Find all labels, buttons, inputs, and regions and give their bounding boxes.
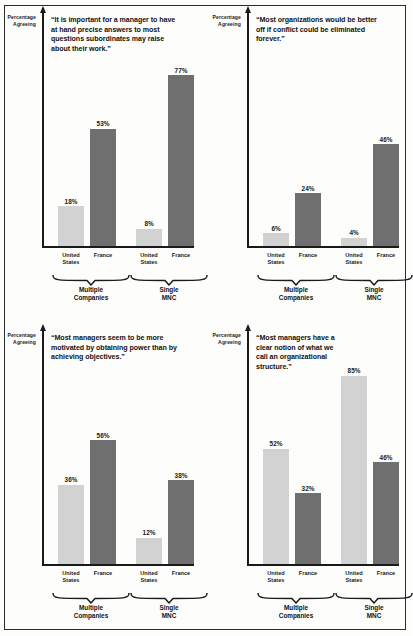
y-axis-line [42,12,44,248]
y-axis-arrow-icon [245,6,251,13]
bar [136,538,162,565]
category-tick-label-line2: States [51,259,91,266]
plot-area: “Most organizations would be better off … [247,12,399,248]
chart-panel: PercentageAgreeing“Most managers seem to… [0,318,205,636]
group-label: MultipleCompanies [54,604,128,621]
group-brace [335,590,413,601]
group-label-line1: Multiple [259,604,333,612]
bar [373,144,399,246]
group-label-line1: Multiple [54,604,128,612]
category-tick-label: France [366,570,406,577]
category-tick-label: France [161,252,201,259]
category-tick-label: France [161,570,201,577]
group-label: MultipleCompanies [259,286,333,303]
panel-quote: “Most organizations would be better off … [256,16,380,45]
category-tick-label-line2: States [256,577,296,584]
x-axis-line [42,246,194,248]
group-label: SingleMNC [337,604,411,621]
y-axis-arrow-icon [40,6,46,13]
x-axis-line [247,564,399,566]
group-label-line2: Companies [259,294,333,302]
bar [168,75,194,246]
chart-panel: PercentageAgreeing“Most managers have a … [205,318,410,636]
bar-value-label: 8% [132,220,166,227]
bar-value-label: 52% [259,440,293,447]
panel-quote: “Most managers have a clear notion of wh… [256,334,336,372]
bar [373,462,399,564]
group-label-line1: Single [132,286,206,294]
group-brace [257,590,335,601]
bar-value-label: 85% [337,367,371,374]
bar [136,229,162,247]
category-tick-label-line2: States [129,259,169,266]
bar-value-label: 53% [86,120,120,127]
group-brace [335,272,413,283]
panel-quote: “It is important for a manager to have a… [51,16,177,54]
bar [295,493,321,564]
group-label: MultipleCompanies [54,286,128,303]
bar [295,193,321,246]
bar-value-label: 24% [291,185,325,192]
group-label-line2: MNC [132,294,206,302]
y-axis-caption: PercentageAgreeing [211,332,241,346]
group-label: MultipleCompanies [259,604,333,621]
category-tick-label-line1: France [161,570,201,577]
bar [90,440,116,564]
x-axis-line [42,564,194,566]
y-axis-caption: PercentageAgreeing [211,14,241,28]
bar-value-label: 6% [259,225,293,232]
y-axis-caption-line2: Agreeing [6,21,36,28]
category-tick-label: France [83,570,123,577]
group-label-line2: MNC [337,612,411,620]
group-label-line1: Single [337,286,411,294]
bar-value-label: 77% [164,67,198,74]
group-label: SingleMNC [337,286,411,303]
category-tick-label-line1: France [366,252,406,259]
y-axis-caption-line1: Percentage [6,332,36,339]
group-label: SingleMNC [132,604,206,621]
category-tick-label-line1: France [83,252,123,259]
bar [58,485,84,565]
bar [90,129,116,247]
category-tick-label: France [288,570,328,577]
y-axis-caption-line2: Agreeing [211,339,241,346]
group-brace [52,272,130,283]
category-tick-label: France [83,252,123,259]
category-tick-label-line1: France [288,570,328,577]
group-brace [130,590,208,601]
y-axis-caption-line1: Percentage [211,332,241,339]
y-axis-line [247,330,249,566]
bar [263,449,289,564]
plot-area: “Most managers have a clear notion of wh… [247,330,399,566]
bar-value-label: 36% [54,476,88,483]
bar-value-label: 12% [132,529,166,536]
panel-quote: “Most managers seem to be more motivated… [51,334,177,363]
x-axis-line [247,246,399,248]
group-label-line2: Companies [259,612,333,620]
y-axis-line [42,330,44,566]
category-tick-label: France [366,252,406,259]
y-axis-caption-line2: Agreeing [211,21,241,28]
bar-value-label: 38% [164,472,198,479]
group-label-line2: Companies [54,294,128,302]
bar [168,480,194,564]
category-tick-label-line1: France [288,252,328,259]
bar-value-label: 18% [54,198,88,205]
bar-value-label: 46% [369,136,403,143]
bar [263,233,289,246]
bar [341,376,367,565]
chart-panel: PercentageAgreeing“It is important for a… [0,0,205,318]
category-tick-label-line2: States [256,259,296,266]
group-label-line2: MNC [132,612,206,620]
group-label-line2: Companies [54,612,128,620]
y-axis-caption: PercentageAgreeing [6,332,36,346]
category-tick-label-line2: States [334,577,374,584]
bar [58,206,84,246]
group-label-line1: Multiple [54,286,128,294]
group-label-line1: Single [132,604,206,612]
y-axis-caption: PercentageAgreeing [6,14,36,28]
plot-area: “It is important for a manager to have a… [42,12,194,248]
bar-value-label: 56% [86,432,120,439]
y-axis-caption-line1: Percentage [6,14,36,21]
